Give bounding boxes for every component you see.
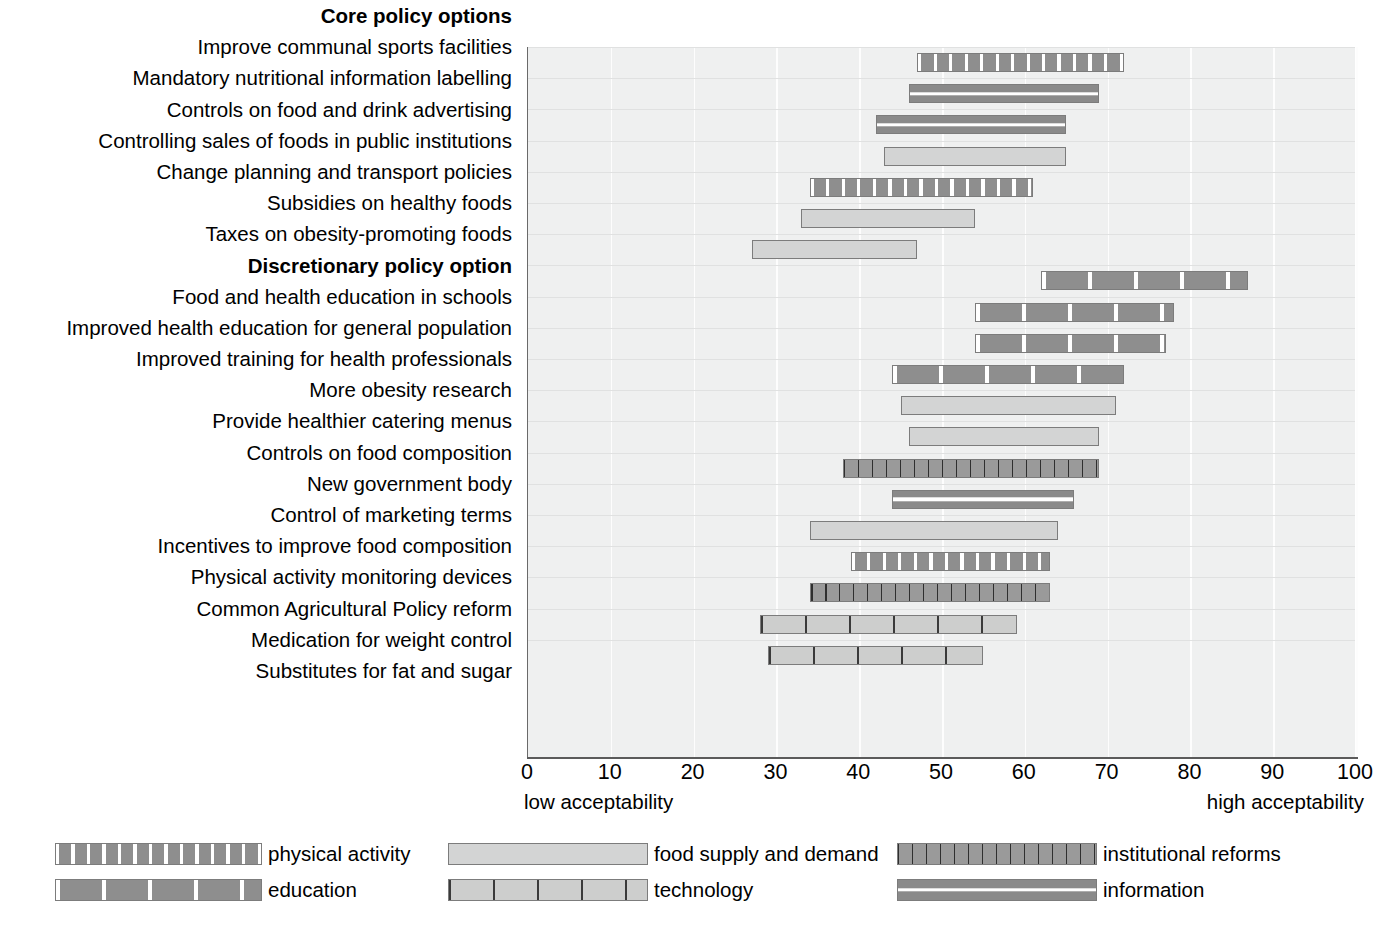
- legend-item[interactable]: physical activity: [55, 836, 410, 872]
- bar-row: [528, 234, 1355, 265]
- horizontal-gridline: [528, 328, 1355, 329]
- category-label: Control of marketing terms: [0, 499, 521, 530]
- range-bar[interactable]: [892, 365, 1124, 384]
- bar-row: [528, 203, 1355, 234]
- range-bar[interactable]: [909, 84, 1099, 103]
- x-tick-label: 40: [846, 760, 870, 785]
- bar-row: [528, 172, 1355, 203]
- bar-row: [528, 546, 1355, 577]
- range-bar[interactable]: [843, 459, 1100, 478]
- category-label: Improved training for health professiona…: [0, 343, 521, 374]
- range-bar[interactable]: [975, 303, 1174, 322]
- x-axis-low-caption: low acceptability: [524, 790, 673, 814]
- legend-swatch-physical: [55, 843, 262, 865]
- x-tick-label: 60: [1012, 760, 1036, 785]
- legend-item[interactable]: institutional reforms: [897, 836, 1281, 872]
- category-label: Subsidies on healthy foods: [0, 187, 521, 218]
- bar-row: [528, 390, 1355, 421]
- range-bar[interactable]: [810, 583, 1050, 602]
- category-label: Mandatory nutritional information labell…: [0, 62, 521, 93]
- horizontal-gridline: [528, 203, 1355, 204]
- category-label: Controlling sales of foods in public ins…: [0, 125, 521, 156]
- section-header: Core policy options: [0, 0, 521, 31]
- legend-item[interactable]: education: [55, 872, 410, 908]
- bar-row: [528, 297, 1355, 328]
- range-bar[interactable]: [760, 615, 1017, 634]
- x-tick-label: 30: [763, 760, 787, 785]
- horizontal-gridline: [528, 141, 1355, 142]
- bar-row: [528, 609, 1355, 640]
- range-bar[interactable]: [901, 396, 1116, 415]
- bar-row: [528, 577, 1355, 608]
- horizontal-gridline: [528, 47, 1355, 48]
- x-tick-label: 90: [1260, 760, 1284, 785]
- x-tick-label: 70: [1095, 760, 1119, 785]
- range-bar[interactable]: [851, 552, 1050, 571]
- bar-row: [528, 328, 1355, 359]
- horizontal-gridline: [528, 172, 1355, 173]
- horizontal-gridline: [528, 265, 1355, 266]
- bar-row: [528, 640, 1355, 671]
- legend-item[interactable]: technology: [448, 872, 879, 908]
- category-label: New government body: [0, 468, 521, 499]
- horizontal-gridline: [528, 297, 1355, 298]
- legend-swatch-technology: [448, 879, 648, 901]
- horizontal-gridline: [528, 640, 1355, 641]
- legend-swatch-information: [897, 879, 1097, 901]
- horizontal-gridline: [528, 546, 1355, 547]
- x-tick-label: 100: [1337, 760, 1373, 785]
- plot-area: [527, 47, 1355, 758]
- bar-row: [528, 78, 1355, 109]
- range-bar[interactable]: [909, 427, 1099, 446]
- category-label: Change planning and transport policies: [0, 156, 521, 187]
- horizontal-gridline: [528, 109, 1355, 110]
- legend-label: education: [268, 878, 357, 902]
- range-bar[interactable]: [752, 240, 918, 259]
- bar-row: [528, 109, 1355, 140]
- horizontal-gridline: [528, 515, 1355, 516]
- range-bar[interactable]: [975, 334, 1165, 353]
- category-label: Incentives to improve food composition: [0, 530, 521, 561]
- legend-label: technology: [654, 878, 753, 902]
- bar-row: [528, 453, 1355, 484]
- legend-label: institutional reforms: [1103, 842, 1281, 866]
- category-label-column: Core policy optionsImprove communal spor…: [0, 0, 521, 686]
- bar-row: [528, 141, 1355, 172]
- x-tick-label: 20: [681, 760, 705, 785]
- x-tick-label: 0: [521, 760, 533, 785]
- legend-column-1: physical activityeducation: [55, 836, 410, 908]
- category-label: Controls on food and drink advertising: [0, 94, 521, 125]
- range-bar[interactable]: [876, 115, 1066, 134]
- horizontal-gridline: [528, 577, 1355, 578]
- range-bar[interactable]: [801, 209, 975, 228]
- legend-label: information: [1103, 878, 1204, 902]
- bar-row: [528, 47, 1355, 78]
- range-bar[interactable]: [810, 521, 1058, 540]
- legend-column-2: food supply and demandtechnology: [448, 836, 879, 908]
- horizontal-gridline: [528, 390, 1355, 391]
- category-label: Substitutes for fat and sugar: [0, 655, 521, 686]
- horizontal-gridline: [528, 359, 1355, 360]
- x-tick-label: 50: [929, 760, 953, 785]
- category-label: Food and health education in schools: [0, 281, 521, 312]
- range-bar[interactable]: [1041, 271, 1248, 290]
- legend-item[interactable]: food supply and demand: [448, 836, 879, 872]
- horizontal-gridline: [528, 453, 1355, 454]
- bar-row: [528, 359, 1355, 390]
- horizontal-gridline: [528, 234, 1355, 235]
- x-tick-label: 80: [1177, 760, 1201, 785]
- range-bar[interactable]: [768, 646, 983, 665]
- range-bar[interactable]: [892, 490, 1074, 509]
- category-label: Controls on food composition: [0, 437, 521, 468]
- range-bar[interactable]: [884, 147, 1066, 166]
- horizontal-gridline: [528, 78, 1355, 79]
- legend-label: food supply and demand: [654, 842, 879, 866]
- category-label: More obesity research: [0, 374, 521, 405]
- range-bar[interactable]: [810, 178, 1034, 197]
- range-bar[interactable]: [917, 53, 1124, 72]
- vertical-gridline: [1356, 47, 1358, 758]
- legend-item[interactable]: information: [897, 872, 1281, 908]
- horizontal-gridline: [528, 609, 1355, 610]
- bar-row: [528, 515, 1355, 546]
